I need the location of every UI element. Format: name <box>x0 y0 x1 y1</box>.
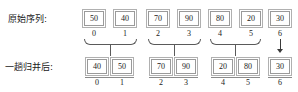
bottom-cell-inner: 20 <box>213 59 233 74</box>
bottom-cell-inner: 50 <box>112 59 132 74</box>
bottom-index: 4 <box>211 79 235 87</box>
bottom-index: 6 <box>268 79 292 87</box>
top-cell-value: 70 <box>154 15 162 23</box>
merge-sort-diagram: 原始序列: 一趟归并后: 50 40 70 90 80 20 30 <box>0 0 298 92</box>
top-cell: 50 <box>82 9 106 28</box>
top-cell-value: 30 <box>276 15 284 23</box>
top-index: 2 <box>146 30 170 38</box>
bottom-cell-inner: 90 <box>176 59 196 74</box>
bottom-index: 5 <box>236 79 260 87</box>
top-cell-inner: 40 <box>115 11 135 26</box>
top-cell: 30 <box>268 9 292 28</box>
bottom-cell-inner: 40 <box>87 59 107 74</box>
bottom-cell: 90 <box>174 57 198 76</box>
top-row-label: 原始序列: <box>8 12 47 25</box>
merge-stem-group-0 <box>110 45 111 56</box>
bottom-index: 2 <box>149 79 173 87</box>
top-cell-inner: 30 <box>270 11 290 26</box>
bottom-cell-inner: 70 <box>151 59 171 74</box>
bottom-cell-value: 90 <box>182 63 190 71</box>
top-cell-inner: 70 <box>148 11 168 26</box>
bottom-index: 0 <box>85 79 109 87</box>
top-index: 1 <box>113 30 137 38</box>
group-underbar <box>149 77 198 78</box>
top-cell: 80 <box>208 9 232 28</box>
bottom-cell-value: 70 <box>157 63 165 71</box>
top-cell-value: 40 <box>121 15 129 23</box>
top-cell-inner: 50 <box>84 11 104 26</box>
bottom-cell: 20 <box>211 57 235 76</box>
top-index: 6 <box>268 30 292 38</box>
top-index: 0 <box>82 30 106 38</box>
merge-arrow-head-group-3 <box>277 49 283 53</box>
bottom-cell: 30 <box>268 57 292 76</box>
merge-stem-group-1 <box>174 45 175 56</box>
bottom-cell-inner: 80 <box>238 59 258 74</box>
top-cell: 90 <box>177 9 201 28</box>
bottom-index: 1 <box>110 79 134 87</box>
bottom-cell-value: 30 <box>276 63 284 71</box>
top-cell: 40 <box>113 9 137 28</box>
group-underbar <box>85 77 134 78</box>
merge-stem-group-2 <box>235 45 236 56</box>
top-index: 3 <box>177 30 201 38</box>
bottom-cell-value: 20 <box>219 63 227 71</box>
bottom-cell-value: 50 <box>118 63 126 71</box>
bottom-cell: 70 <box>149 57 173 76</box>
top-cell-inner: 20 <box>241 11 261 26</box>
bottom-cell-inner: 30 <box>270 59 290 74</box>
bottom-cell-value: 40 <box>93 63 101 71</box>
top-index: 5 <box>239 30 263 38</box>
bottom-cell: 50 <box>110 57 134 76</box>
bottom-index: 3 <box>174 79 198 87</box>
group-underbar <box>211 77 260 78</box>
top-cell: 70 <box>146 9 170 28</box>
top-cell-inner: 90 <box>179 11 199 26</box>
bottom-row-label: 一趟归并后: <box>5 60 53 73</box>
bottom-cell: 40 <box>85 57 109 76</box>
bottom-cell: 80 <box>236 57 260 76</box>
top-cell-inner: 80 <box>210 11 230 26</box>
top-cell-value: 80 <box>216 15 224 23</box>
top-cell: 20 <box>239 9 263 28</box>
top-cell-value: 90 <box>185 15 193 23</box>
top-cell-value: 50 <box>90 15 98 23</box>
bottom-cell-value: 80 <box>244 63 252 71</box>
top-cell-value: 20 <box>247 15 255 23</box>
top-index: 4 <box>208 30 232 38</box>
